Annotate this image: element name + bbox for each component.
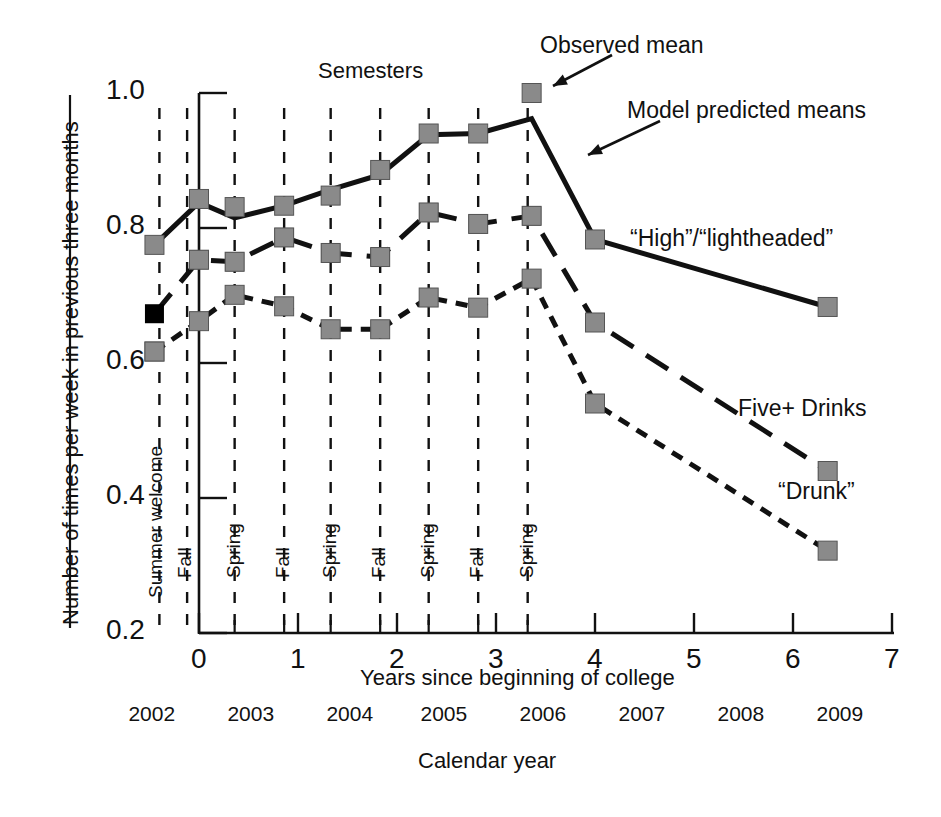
period-label-5: Fall bbox=[368, 547, 390, 578]
observed-marker-2-7 bbox=[469, 298, 488, 317]
annotation-label-observed-mean: Observed mean bbox=[540, 32, 704, 59]
observed-marker-0-0 bbox=[145, 235, 164, 254]
observed-marker-0-8 bbox=[522, 84, 541, 103]
period-label-8: Spring bbox=[516, 523, 538, 578]
x-tick-label-6: 6 bbox=[785, 643, 801, 675]
observed-marker-0-1 bbox=[190, 189, 209, 208]
observed-marker-2-6 bbox=[419, 288, 438, 307]
calendar-year-label-7: 2009 bbox=[817, 702, 864, 726]
x-tick-label-5: 5 bbox=[686, 643, 702, 675]
semesters-label: Semesters bbox=[318, 58, 423, 84]
calendar-year-label-4: 2006 bbox=[520, 702, 567, 726]
period-label-1: Fall bbox=[174, 547, 196, 578]
annotation-label-high-lightheaded: “High”/“lightheaded” bbox=[630, 225, 833, 252]
calendar-year-label-3: 2005 bbox=[421, 702, 468, 726]
y-tick-label-3: 0.4 bbox=[106, 479, 145, 511]
x-tick-label-7: 7 bbox=[884, 643, 900, 675]
y-tick-label-2: 0.6 bbox=[106, 344, 145, 376]
annotation-arrowhead-1 bbox=[588, 144, 603, 155]
observed-marker-0-9 bbox=[586, 230, 605, 249]
observed-marker-1-6 bbox=[419, 203, 438, 222]
period-label-6: Spring bbox=[417, 523, 439, 578]
x-axis-title: Years since beginning of college bbox=[360, 665, 675, 691]
observed-marker-2-0 bbox=[145, 342, 164, 361]
observed-marker-1-4 bbox=[321, 243, 340, 262]
calendar-year-label-0: 2002 bbox=[128, 702, 175, 726]
calendar-year-label-1: 2003 bbox=[227, 702, 274, 726]
observed-marker-2-10 bbox=[818, 541, 837, 560]
observed-marker-0-4 bbox=[321, 186, 340, 205]
calendar-year-axis-title: Calendar year bbox=[418, 748, 556, 774]
y-tick-label-4: 0.2 bbox=[106, 614, 145, 646]
observed-marker-0-10 bbox=[818, 297, 837, 316]
observed-marker-0-6 bbox=[419, 124, 438, 143]
y-axis-title: Number of times per week in previous thr… bbox=[58, 121, 84, 625]
observed-marker-1-2 bbox=[225, 252, 244, 271]
observed-marker-2-5 bbox=[371, 320, 390, 339]
annotation-label-drunk: “Drunk” bbox=[778, 478, 855, 505]
observed-marker-2-8 bbox=[522, 269, 541, 288]
observed-marker-0-5 bbox=[371, 160, 390, 179]
observed-marker-2-2 bbox=[225, 285, 244, 304]
observed-marker-1-5 bbox=[371, 248, 390, 267]
observed-marker-0-2 bbox=[225, 198, 244, 217]
calendar-year-label-6: 2008 bbox=[718, 702, 765, 726]
period-label-4: Spring bbox=[319, 523, 341, 578]
calendar-year-label-2: 2004 bbox=[326, 702, 373, 726]
observed-marker-1-7 bbox=[469, 214, 488, 233]
observed-marker-1-8 bbox=[522, 206, 541, 225]
period-label-2: Spring bbox=[223, 523, 245, 578]
observed-marker-2-3 bbox=[275, 297, 294, 316]
observed-marker-1-3 bbox=[275, 228, 294, 247]
x-tick-label-0: 0 bbox=[191, 643, 207, 675]
period-label-3: Fall bbox=[272, 547, 294, 578]
y-tick-label-1: 0.8 bbox=[106, 209, 145, 241]
calendar-year-label-5: 2007 bbox=[619, 702, 666, 726]
observed-marker-2-1 bbox=[190, 312, 209, 331]
period-label-7: Fall bbox=[466, 547, 488, 578]
x-tick-label-1: 1 bbox=[290, 643, 306, 675]
observed-marker-0-3 bbox=[275, 196, 294, 215]
observed-marker-2-9 bbox=[586, 394, 605, 413]
annotation-label-five-plus-drinks: Five+ Drinks bbox=[738, 395, 866, 422]
observed-marker-1-9 bbox=[586, 313, 605, 332]
predicted-marker-1-0 bbox=[145, 304, 164, 323]
annotation-label-model-predicted-means: Model predicted means bbox=[627, 97, 866, 124]
observed-marker-0-7 bbox=[469, 124, 488, 143]
period-label-0: Summer welcome bbox=[145, 446, 167, 598]
series-line-0 bbox=[154, 119, 827, 307]
observed-marker-1-1 bbox=[190, 250, 209, 269]
chart-figure: 1.00.80.60.40.2Number of times per week … bbox=[0, 0, 941, 817]
observed-marker-2-4 bbox=[321, 320, 340, 339]
y-tick-label-0: 1.0 bbox=[106, 74, 145, 106]
annotation-arrowhead-0 bbox=[553, 75, 568, 86]
series-line-2 bbox=[154, 279, 827, 551]
